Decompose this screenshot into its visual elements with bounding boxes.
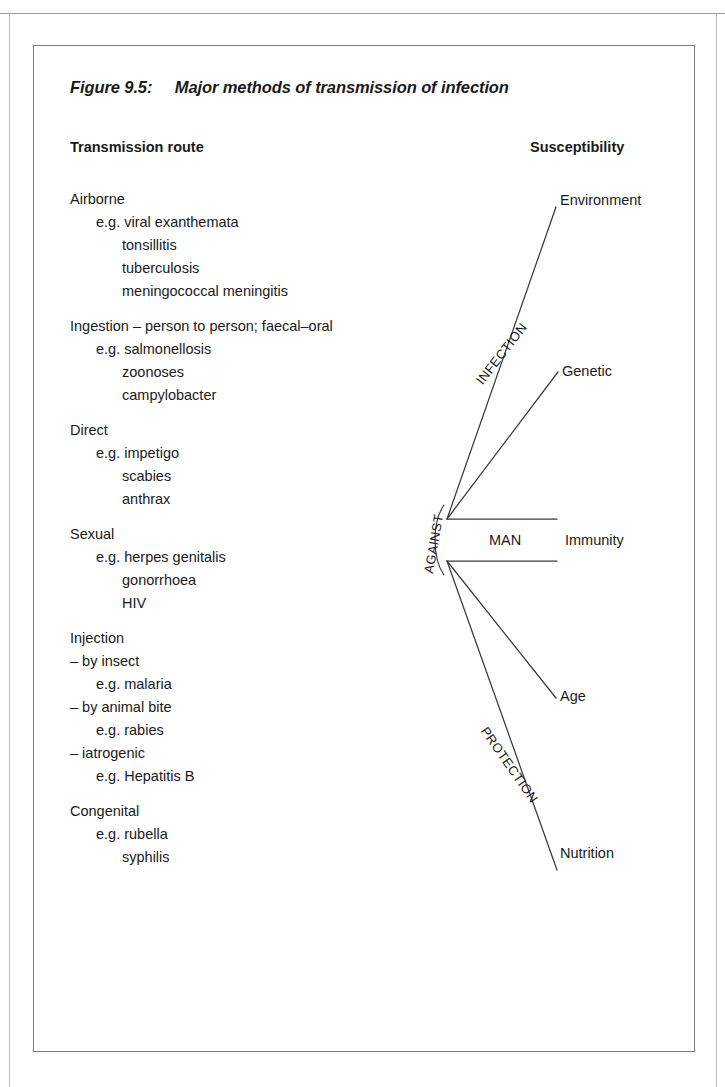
route-line: syphilis: [70, 846, 470, 869]
column-heading-transmission-route: Transmission route: [70, 139, 204, 155]
route-line: gonorrhoea: [70, 569, 470, 592]
column-heading-susceptibility: Susceptibility: [530, 139, 624, 155]
page-edge-left-rule: [9, 13, 10, 1087]
route-line: HIV: [70, 592, 470, 615]
route-line: Injection: [70, 627, 470, 650]
route-line: tonsillitis: [70, 234, 470, 257]
susceptibility-label-age: Age: [560, 688, 586, 704]
route-line: Sexual: [70, 523, 470, 546]
route-line: – iatrogenic: [70, 742, 470, 765]
route-line: zoonoses: [70, 361, 470, 384]
route-line: tuberculosis: [70, 257, 470, 280]
route-group: Injection– by insecte.g. malaria– by ani…: [70, 627, 470, 788]
susceptibility-label-nutrition: Nutrition: [560, 845, 614, 861]
susceptibility-label-environment: Environment: [560, 192, 641, 208]
route-group: Ingestion – person to person; faecal–ora…: [70, 315, 470, 407]
route-line: Ingestion – person to person; faecal–ora…: [70, 315, 470, 338]
route-line: e.g. Hepatitis B: [70, 765, 470, 788]
route-group: Directe.g. impetigoscabiesanthrax: [70, 419, 470, 511]
route-line: Direct: [70, 419, 470, 442]
route-line: e.g. salmonellosis: [70, 338, 470, 361]
route-line: Congenital: [70, 800, 470, 823]
page-edge-top-rule: [0, 13, 725, 14]
page-edge-right-rule: [716, 13, 717, 1087]
route-line: e.g. malaria: [70, 673, 470, 696]
route-group: Congenitale.g. rubellasyphilis: [70, 800, 470, 869]
route-line: e.g. herpes genitalis: [70, 546, 470, 569]
transmission-route-list: Airbornee.g. viral exanthematatonsilliti…: [70, 188, 470, 881]
susceptibility-label-genetic: Genetic: [562, 363, 612, 379]
route-line: e.g. rabies: [70, 719, 470, 742]
route-line: scabies: [70, 465, 470, 488]
diagram-center-label-man: MAN: [489, 532, 521, 548]
route-group: Airbornee.g. viral exanthematatonsilliti…: [70, 188, 470, 303]
route-line: Airborne: [70, 188, 470, 211]
figure-title: Figure 9.5: Major methods of transmissio…: [70, 78, 509, 97]
figure-page: Figure 9.5: Major methods of transmissio…: [0, 0, 725, 1087]
route-line: e.g. impetigo: [70, 442, 470, 465]
susceptibility-label-immunity: Immunity: [565, 532, 624, 548]
route-line: e.g. rubella: [70, 823, 470, 846]
route-line: – by insect: [70, 650, 470, 673]
route-group: Sexuale.g. herpes genitalisgonorrhoeaHIV: [70, 523, 470, 615]
route-line: e.g. viral exanthemata: [70, 211, 470, 234]
route-line: campylobacter: [70, 384, 470, 407]
route-line: – by animal bite: [70, 696, 470, 719]
route-line: anthrax: [70, 488, 470, 511]
route-line: meningococcal meningitis: [70, 280, 470, 303]
